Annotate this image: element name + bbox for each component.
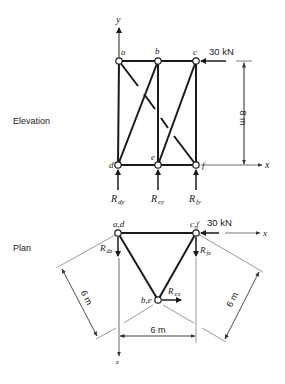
plan-ext-left-bottom-a bbox=[96, 328, 116, 339]
node-e bbox=[155, 162, 161, 168]
plan-node-cf bbox=[193, 230, 199, 236]
node-b bbox=[155, 58, 161, 64]
plan-ext-right-bottom-b bbox=[202, 328, 226, 342]
plan-dim-right-label: 6 m bbox=[224, 291, 240, 309]
plan-dim-bottom-label: 6 m bbox=[150, 325, 165, 335]
node-label-c: c bbox=[193, 47, 197, 57]
reaction-label-ex: Rex bbox=[167, 286, 180, 297]
plan-member-left bbox=[118, 233, 158, 300]
node-c bbox=[193, 58, 199, 64]
node-d bbox=[115, 162, 121, 168]
plan-ext-right-bottom-a bbox=[163, 305, 194, 323]
elevation-view: y a b bbox=[109, 14, 270, 206]
member-db bbox=[118, 61, 158, 165]
plan-load-label: 30 kN bbox=[207, 217, 232, 228]
plan-node-label-be: b,e bbox=[141, 295, 152, 305]
member-af-seg1 bbox=[119, 61, 138, 86]
node-label-a: a bbox=[121, 47, 126, 57]
height-dim-label: 8 m bbox=[238, 110, 248, 125]
x-axis-label: x bbox=[264, 159, 270, 170]
plan-dim-left-label: 6 m bbox=[79, 289, 95, 307]
member-af-seg2 bbox=[144, 94, 155, 109]
plan-node-label-ad: a,d bbox=[113, 219, 125, 229]
reaction-label-ey: Rey bbox=[150, 193, 165, 206]
reaction-label-fz: Rfz bbox=[199, 245, 211, 256]
plan-x-axis-label: x bbox=[262, 228, 267, 238]
node-label-d: d bbox=[109, 160, 114, 170]
z-axis-label: z bbox=[115, 358, 119, 366]
member-af-seg3 bbox=[161, 118, 168, 128]
plan-node-ad bbox=[115, 230, 121, 236]
node-f bbox=[193, 162, 199, 168]
reaction-label-fy: Rfy bbox=[188, 193, 202, 206]
member-ec bbox=[158, 61, 196, 165]
member-af-seg4 bbox=[174, 136, 196, 165]
load-label: 30 kN bbox=[209, 46, 234, 57]
elevation-members bbox=[118, 61, 196, 165]
plan-node-be bbox=[155, 297, 161, 303]
plan-node-label-cf: c,f bbox=[190, 219, 200, 229]
reaction-label-dz: Rdz bbox=[99, 243, 113, 254]
plan-view: 6 m 6 m 6 m z a,d c,f b,e 30 kN x bbox=[56, 217, 267, 366]
node-label-e: e bbox=[151, 152, 155, 162]
reaction-label-dy: Rdy bbox=[110, 193, 126, 206]
plan-ext-left-bottom-b bbox=[124, 305, 153, 323]
y-axis-label: y bbox=[115, 14, 121, 25]
member-ad bbox=[118, 61, 119, 165]
node-a bbox=[116, 58, 122, 64]
truss-diagram: y a b bbox=[0, 0, 285, 384]
node-label-b: b bbox=[155, 46, 160, 56]
